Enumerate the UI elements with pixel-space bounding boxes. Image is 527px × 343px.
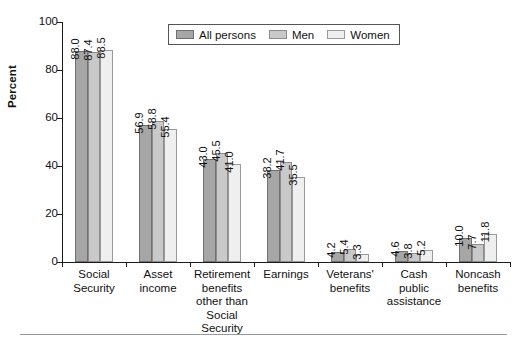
x-axis-category-label-line: other than bbox=[190, 295, 254, 309]
bar-value-label: 45.5 bbox=[211, 140, 222, 161]
x-tick-mark bbox=[190, 262, 191, 267]
legend-item: Men bbox=[269, 29, 314, 41]
legend-swatch-icon bbox=[176, 30, 194, 39]
bar-value-label: 4.2 bbox=[326, 242, 337, 257]
bar-value-label: 56.9 bbox=[134, 113, 145, 134]
legend-item: Women bbox=[327, 29, 389, 41]
x-axis-category-label-line: benefits bbox=[190, 282, 254, 296]
x-tick-mark bbox=[382, 262, 383, 267]
bar-value-label: 3.3 bbox=[352, 244, 363, 259]
bar-value-label: 55.4 bbox=[160, 116, 171, 137]
bar-value-label: 87.4 bbox=[83, 40, 94, 61]
bar-value-label: 41.0 bbox=[224, 151, 235, 172]
bar-group: 38.241.735.5 bbox=[267, 22, 305, 262]
bar-group: 88.087.488.5 bbox=[75, 22, 113, 262]
x-tick-mark bbox=[126, 262, 127, 267]
x-axis-category-label: Retirementbenefitsother thanSocial Secur… bbox=[190, 268, 254, 336]
bar: 87.4 bbox=[88, 52, 101, 262]
bar: 5.2 bbox=[420, 250, 433, 262]
x-axis-category-label-line: Asset bbox=[126, 268, 190, 282]
x-axis-category-label: Cashpublicassistance bbox=[382, 268, 446, 309]
plot-area: 02040608010088.087.488.556.958.855.443.0… bbox=[62, 22, 510, 262]
bar-group: 10.07.711.8 bbox=[459, 22, 497, 262]
x-tick-mark bbox=[254, 262, 255, 267]
bar-chart-figure: Percent 02040608010088.087.488.556.958.8… bbox=[0, 0, 527, 343]
bar: 88.5 bbox=[100, 50, 113, 262]
x-axis-category-label-line: Veterans' bbox=[318, 268, 382, 282]
y-tick-label: 80 bbox=[45, 62, 58, 77]
x-axis-category-label-line: assistance bbox=[382, 295, 446, 309]
bar-value-label: 5.4 bbox=[339, 239, 350, 254]
bar: 56.9 bbox=[139, 125, 152, 262]
y-tick-label: 0 bbox=[52, 254, 58, 269]
bar-group: 43.045.541.0 bbox=[203, 22, 241, 262]
x-axis-category-label-line: benefits bbox=[318, 282, 382, 296]
x-tick-mark bbox=[62, 262, 63, 267]
x-axis-category-label-line: Security bbox=[62, 282, 126, 296]
y-axis-title: Percent bbox=[6, 65, 18, 108]
x-axis-spine bbox=[62, 262, 511, 263]
chart-legend: All personsMenWomen bbox=[168, 24, 400, 45]
bar: 55.4 bbox=[164, 129, 177, 262]
legend-label: Women bbox=[350, 29, 389, 41]
bar-value-label: 10.0 bbox=[454, 225, 465, 246]
legend-label: Men bbox=[292, 29, 314, 41]
x-axis-category-label-line: public bbox=[382, 282, 446, 296]
y-tick-label: 60 bbox=[45, 110, 58, 125]
bar: 11.8 bbox=[484, 234, 497, 262]
bar-value-label: 41.7 bbox=[275, 149, 286, 170]
x-axis-category-label-line: Cash bbox=[382, 268, 446, 282]
x-axis-category-label-line: income bbox=[126, 282, 190, 296]
bar-value-label: 4.6 bbox=[390, 241, 401, 256]
y-tick-label: 100 bbox=[39, 14, 58, 29]
x-axis-category-label: Assetincome bbox=[126, 268, 190, 295]
x-axis-category-label: SocialSecurity bbox=[62, 268, 126, 295]
x-axis-category-label-line: Social Security bbox=[190, 309, 254, 336]
bar: 3.3 bbox=[356, 254, 369, 262]
bar-value-label: 38.2 bbox=[262, 158, 273, 179]
x-tick-mark bbox=[446, 262, 447, 267]
bar-group: 4.25.43.3 bbox=[331, 22, 369, 262]
bar-value-label: 11.8 bbox=[480, 221, 491, 242]
legend-swatch-icon bbox=[269, 30, 287, 39]
y-tick-label: 20 bbox=[45, 206, 58, 221]
bar-value-label: 88.0 bbox=[70, 38, 81, 59]
legend-item: All persons bbox=[176, 29, 256, 41]
x-axis-category-label-line: Earnings bbox=[254, 268, 318, 282]
x-axis-category-label-line: Retirement bbox=[190, 268, 254, 282]
legend-swatch-icon bbox=[327, 30, 345, 39]
bar: 35.5 bbox=[292, 177, 305, 262]
x-axis-category-label-line: benefits bbox=[446, 282, 510, 296]
x-axis-category-label: Veterans'benefits bbox=[318, 268, 382, 295]
x-axis-category-label-line: Social bbox=[62, 268, 126, 282]
bar-value-label: 7.7 bbox=[467, 234, 478, 249]
bar-group: 4.63.85.2 bbox=[395, 22, 433, 262]
footer-divider bbox=[20, 334, 507, 335]
x-tick-mark bbox=[510, 262, 511, 267]
bar: 58.8 bbox=[152, 121, 165, 262]
bar-value-label: 35.5 bbox=[288, 164, 299, 185]
legend-label: All persons bbox=[199, 29, 256, 41]
x-axis-category-label: Earnings bbox=[254, 268, 318, 282]
bar-value-label: 58.8 bbox=[147, 108, 158, 129]
bar: 38.2 bbox=[267, 170, 280, 262]
x-tick-mark bbox=[318, 262, 319, 267]
bar-value-label: 3.8 bbox=[403, 243, 414, 258]
x-axis-category-label: Noncashbenefits bbox=[446, 268, 510, 295]
bar-value-label: 88.5 bbox=[96, 37, 107, 58]
bar-group: 56.958.855.4 bbox=[139, 22, 177, 262]
bar-value-label: 5.2 bbox=[416, 240, 427, 255]
bar: 88.0 bbox=[75, 51, 88, 262]
x-axis-category-label-line: Noncash bbox=[446, 268, 510, 282]
bar: 43.0 bbox=[203, 159, 216, 262]
bar-value-label: 43.0 bbox=[198, 146, 209, 167]
bar: 41.0 bbox=[228, 164, 241, 262]
bar: 7.7 bbox=[472, 244, 485, 262]
y-tick-label: 40 bbox=[45, 158, 58, 173]
